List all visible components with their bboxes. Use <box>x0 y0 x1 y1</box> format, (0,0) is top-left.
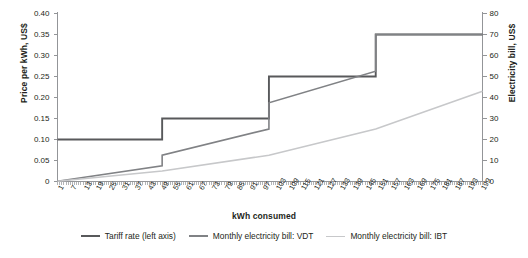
y-axis-right-tick: 20 <box>490 135 528 144</box>
y-axis-right-tick: 30 <box>490 114 528 123</box>
series-line-2 <box>58 91 483 181</box>
series-line-0 <box>58 35 483 140</box>
legend-item-0: Tariff rate (left axis) <box>81 231 176 241</box>
y-axis-left-tick: 0 <box>10 177 50 186</box>
legend-swatch-icon <box>189 235 208 237</box>
chart-series-group <box>58 35 483 182</box>
y-axis-right-tick: 50 <box>490 72 528 81</box>
y-axis-left-tick: 0.20 <box>10 93 50 102</box>
y-axis-left-tick: 0.35 <box>10 30 50 39</box>
chart-axes <box>54 12 487 185</box>
legend-label: Monthly electricity bill: VDT <box>213 231 314 241</box>
chart-legend: Tariff rate (left axis)Monthly electrici… <box>0 231 528 241</box>
legend-swatch-icon <box>326 236 345 237</box>
chart-container: Price per kWh, US$ Electricity bill, US$… <box>0 0 528 258</box>
y-axis-left-tick: 0.40 <box>10 9 50 18</box>
y-axis-left-tick: 0.30 <box>10 51 50 60</box>
y-axis-left-tick: 0.25 <box>10 72 50 81</box>
legend-label: Monthly electricity bill: IBT <box>350 231 447 241</box>
series-line-1 <box>58 35 483 182</box>
y-axis-right-tick: 80 <box>490 9 528 18</box>
legend-item-1: Monthly electricity bill: VDT <box>189 231 314 241</box>
y-axis-left-tick: 0.05 <box>10 156 50 165</box>
y-axis-left-tick: 0.10 <box>10 135 50 144</box>
legend-item-2: Monthly electricity bill: IBT <box>326 231 447 241</box>
x-axis-title: kWh consumed <box>0 211 528 221</box>
y-axis-right-tick: 10 <box>490 156 528 165</box>
y-axis-right-tick: 60 <box>490 51 528 60</box>
y-axis-right-tick: 0 <box>490 177 528 186</box>
y-axis-left-tick: 0.15 <box>10 114 50 123</box>
legend-label: Tariff rate (left axis) <box>105 231 176 241</box>
y-axis-right-tick: 70 <box>490 30 528 39</box>
legend-swatch-icon <box>81 235 100 237</box>
y-axis-right-tick: 40 <box>490 93 528 102</box>
